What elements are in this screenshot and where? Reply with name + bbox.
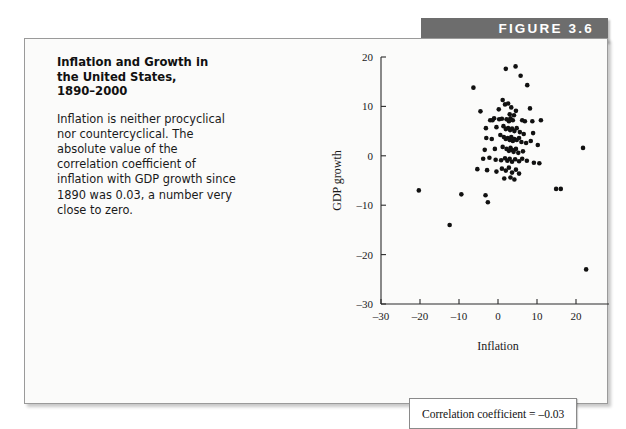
data-point: [507, 165, 512, 170]
data-point: [494, 125, 499, 130]
data-point: [482, 148, 487, 153]
data-point: [530, 119, 535, 124]
y-tick-label: –20: [356, 249, 374, 261]
chart-ticks: [381, 57, 609, 304]
x-tick-label: –30: [372, 310, 390, 322]
data-point: [517, 171, 522, 176]
y-tick-label: 0: [368, 150, 374, 162]
correlation-annotation-box: Correlation coefficient = –0.03: [409, 398, 577, 429]
data-point: [584, 267, 589, 272]
data-point: [475, 167, 480, 172]
data-point: [500, 116, 505, 121]
data-point: [504, 67, 509, 72]
y-tick-label: –10: [356, 199, 374, 211]
data-point: [539, 118, 544, 123]
data-point: [506, 101, 511, 106]
data-point: [513, 64, 518, 69]
data-point: [478, 109, 483, 114]
data-point: [514, 147, 519, 152]
data-point: [554, 187, 559, 192]
data-point: [496, 107, 501, 112]
data-point: [516, 151, 521, 156]
chart-labels: 20100–10–20–30–30–20–100102030InflationG…: [330, 51, 609, 353]
chart-canvas: 20100–10–20–30–30–20–100102030InflationG…: [271, 39, 609, 405]
data-point: [500, 145, 505, 150]
correlation-coefficient-text: Correlation coefficient = –0.03: [422, 408, 564, 420]
data-point: [493, 147, 498, 152]
data-point: [581, 146, 586, 151]
data-point: [524, 141, 529, 146]
scatter-chart: 20100–10–20–30–30–20–100102030InflationG…: [271, 39, 609, 405]
data-point: [558, 187, 563, 192]
data-point: [520, 156, 525, 161]
data-point: [500, 98, 505, 103]
data-point: [518, 130, 523, 135]
data-point: [494, 169, 499, 174]
data-point: [525, 83, 530, 88]
data-point: [509, 105, 514, 110]
data-point: [521, 149, 526, 154]
figure-description: Inflation is neither procyclical nor cou…: [57, 112, 239, 218]
data-point: [514, 167, 519, 172]
data-point: [510, 170, 515, 175]
data-point: [535, 143, 540, 148]
data-point: [507, 112, 512, 117]
data-point: [518, 73, 523, 78]
data-point: [489, 137, 494, 142]
data-point: [511, 118, 516, 123]
data-point: [481, 156, 486, 161]
chart-axes: [381, 57, 609, 304]
data-point: [523, 119, 528, 124]
data-point: [485, 168, 490, 173]
y-tick-label: 10: [362, 100, 374, 112]
data-point: [484, 136, 489, 141]
data-point: [502, 176, 507, 181]
figure-number-label: FIGURE 3.6: [498, 21, 594, 36]
data-point: [484, 126, 489, 131]
data-point: [531, 131, 536, 136]
data-point: [487, 155, 492, 160]
data-point: [508, 175, 513, 180]
data-point: [519, 140, 524, 145]
data-point: [514, 109, 519, 114]
data-point: [525, 158, 530, 163]
data-point: [486, 200, 491, 205]
data-point: [493, 157, 498, 162]
data-point: [517, 136, 522, 141]
x-axis-title: Inflation: [477, 339, 518, 353]
x-tick-label: 0: [495, 310, 501, 322]
data-point: [521, 132, 526, 137]
data-point: [528, 139, 533, 144]
data-point: [512, 177, 517, 182]
x-tick-label: 10: [532, 310, 544, 322]
data-point: [483, 193, 488, 198]
data-point: [512, 113, 517, 118]
data-point: [447, 223, 452, 228]
chart-datapoints: [417, 64, 589, 272]
data-point: [513, 157, 518, 162]
figure-title: Inflation and Growth in the United State…: [57, 55, 239, 99]
data-point: [417, 188, 422, 193]
y-tick-label: 20: [362, 51, 374, 63]
x-tick-label: 20: [571, 310, 583, 322]
data-point: [500, 166, 505, 171]
caption-block: Inflation and Growth in the United State…: [57, 55, 239, 218]
y-tick-label: –30: [356, 298, 374, 310]
x-tick-label: –20: [411, 310, 429, 322]
data-point: [499, 158, 504, 163]
data-point: [490, 118, 495, 123]
data-point: [514, 126, 519, 131]
x-tick-label: –10: [450, 310, 468, 322]
data-point: [537, 161, 542, 166]
y-axis-title: GDP growth: [330, 150, 344, 211]
data-point: [532, 160, 537, 165]
figure-panel: Inflation and Growth in the United State…: [24, 38, 608, 404]
data-point: [459, 192, 464, 197]
data-point: [528, 106, 533, 111]
data-point: [471, 85, 476, 90]
